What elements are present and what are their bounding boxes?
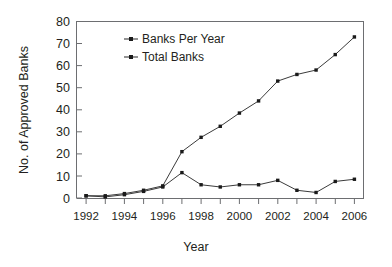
legend-entry-total-banks[interactable]: Total Banks (124, 50, 204, 64)
data-point-marker (238, 183, 241, 186)
data-point-marker (219, 185, 222, 188)
series-line (86, 37, 354, 196)
y-tick-70: 70 (56, 37, 82, 51)
data-point-marker (353, 178, 356, 181)
y-tick-60: 60 (56, 59, 82, 73)
data-point-marker (199, 136, 202, 139)
data-point-marker (180, 171, 183, 174)
legend-entry-banks-per-year[interactable]: Banks Per Year (124, 32, 225, 46)
y-axis-title: No. of Approved Banks (17, 46, 31, 174)
data-point-marker (257, 183, 260, 186)
x-tick-label: 2002 (265, 210, 291, 222)
data-point-marker (219, 125, 222, 128)
line-chart: 0 10 20 30 40 50 (0, 0, 392, 267)
plot-frame (77, 21, 365, 199)
y-tick-label: 40 (56, 103, 70, 117)
data-point-marker (199, 183, 202, 186)
legend-label: Banks Per Year (142, 32, 225, 46)
x-tick-label: 2004 (303, 210, 329, 222)
data-point-marker (104, 194, 107, 197)
data-point-marker (257, 99, 260, 102)
data-point-marker (123, 192, 126, 195)
y-tick-30: 30 (56, 125, 82, 139)
y-tick-label: 0 (63, 192, 70, 206)
x-axis-title: Year (183, 240, 208, 254)
x-tick-label: 1998 (188, 210, 214, 222)
y-tick-40: 40 (56, 103, 82, 117)
y-tick-label: 50 (56, 81, 70, 95)
legend-swatch-marker (129, 55, 133, 59)
data-point-marker (142, 189, 145, 192)
data-point-marker (238, 111, 241, 114)
y-tick-label: 60 (56, 59, 70, 73)
data-point-marker (295, 73, 298, 76)
chart-figure: 0 10 20 30 40 50 (0, 0, 392, 267)
x-tick-label: 2000 (227, 210, 253, 222)
y-tick-20: 20 (56, 147, 82, 161)
x-axis-ticks (86, 199, 354, 205)
data-point-marker (276, 179, 279, 182)
x-tick-label: 1996 (150, 210, 176, 222)
y-tick-label: 10 (56, 170, 70, 184)
data-point-marker (276, 79, 279, 82)
legend-swatch-marker (129, 37, 133, 41)
data-point-marker (314, 68, 317, 71)
y-tick-label: 80 (56, 15, 70, 29)
data-point-marker (84, 194, 87, 197)
y-tick-label: 30 (56, 125, 70, 139)
data-series-layer (84, 35, 356, 198)
data-point-marker (314, 191, 317, 194)
legend-label: Total Banks (142, 50, 204, 64)
y-tick-80: 80 (56, 15, 82, 29)
x-tick-label: 2006 (342, 210, 368, 222)
y-axis-ticks: 0 10 20 30 40 50 (56, 15, 82, 206)
data-point-marker (353, 35, 356, 38)
y-tick-label: 70 (56, 37, 70, 51)
y-tick-label: 20 (56, 147, 70, 161)
series-total-banks (84, 35, 356, 197)
x-axis-tick-labels: 1992 1994 1996 1998 2000 2002 2004 2006 (73, 210, 367, 222)
chart-legend: Banks Per Year Total Banks (124, 32, 225, 64)
data-point-marker (295, 189, 298, 192)
y-tick-0: 0 (63, 192, 82, 206)
x-tick-label: 1994 (112, 210, 138, 222)
y-tick-50: 50 (56, 81, 82, 95)
data-point-marker (334, 180, 337, 183)
data-point-marker (334, 53, 337, 56)
x-tick-label: 1992 (73, 210, 99, 222)
data-point-marker (161, 184, 164, 187)
data-point-marker (180, 150, 183, 153)
y-tick-10: 10 (56, 170, 82, 184)
